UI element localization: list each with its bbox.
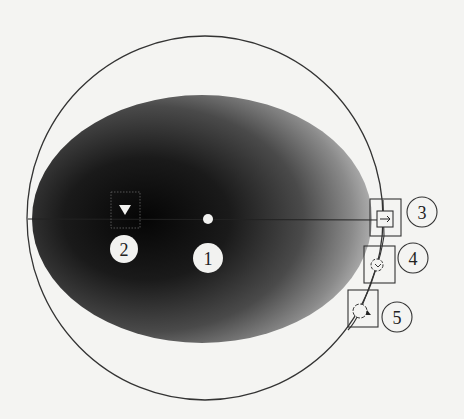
callout-3-label: 3 — [418, 203, 427, 223]
rotate-ring-icon — [371, 259, 383, 271]
rotate-arrow-icon — [353, 304, 371, 318]
rotation-ring-arrow-box[interactable] — [348, 290, 378, 327]
callout-2-label: 2 — [120, 240, 129, 260]
callout-1: 1 — [193, 243, 223, 273]
callout-4: 4 — [398, 243, 428, 273]
callout-5-label: 5 — [393, 308, 402, 328]
callout-3: 3 — [407, 197, 437, 227]
callout-4-label: 4 — [409, 249, 418, 269]
callout-1-label: 1 — [204, 249, 213, 269]
diagram-canvas: 2 1 3 4 5 — [0, 0, 464, 419]
callout-5: 5 — [382, 302, 412, 332]
callout-2: 2 — [110, 235, 138, 263]
arrow-box[interactable] — [370, 199, 401, 236]
center-dot[interactable] — [203, 214, 213, 224]
